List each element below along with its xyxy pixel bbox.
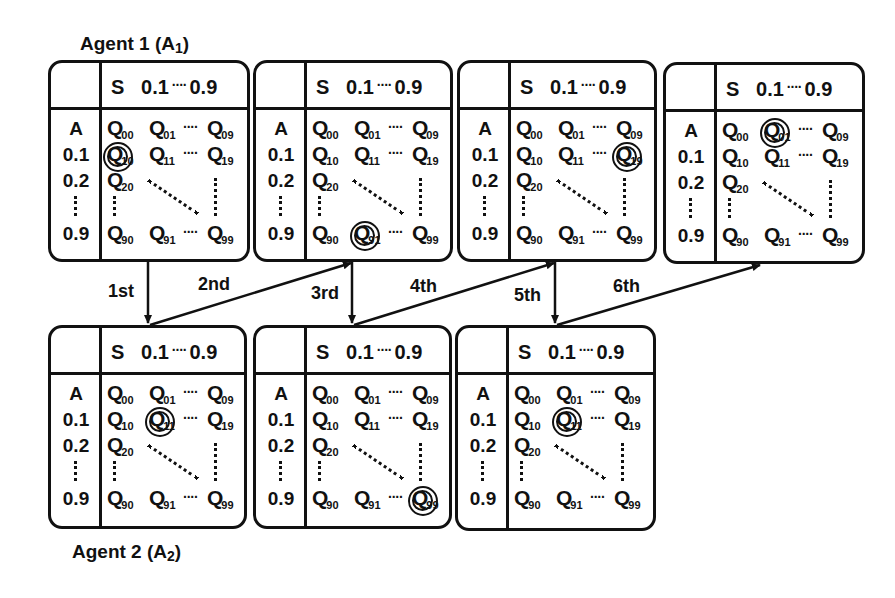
q-subscript: 91 xyxy=(163,234,175,246)
h-dots: ···· xyxy=(798,227,813,241)
state-last: 0.9 xyxy=(394,76,422,98)
column-divider xyxy=(304,328,307,526)
q-cell-10: Q10 xyxy=(312,143,339,164)
state-first: 0.1 xyxy=(548,341,576,363)
q-subscript: 20 xyxy=(326,181,338,193)
q-cell-19: Q19 xyxy=(614,408,641,429)
selected-q-inner-circle-icon xyxy=(556,411,577,432)
q-subscript: 20 xyxy=(528,446,540,458)
q-cell-99: Q99 xyxy=(207,487,234,508)
q-subscript: 01 xyxy=(163,394,175,406)
q-subscript: 20 xyxy=(121,181,133,193)
q-cell-11: Q11 xyxy=(558,143,584,164)
diagonal-ellipsis xyxy=(554,444,605,480)
q-table-panel-a1-panel3: T O S 0.1····0.9 A 0.1 0.2 0.9 Q00 Q01 ·… xyxy=(457,60,657,262)
q-cell-90: Q90 xyxy=(107,487,134,508)
column-divider xyxy=(508,63,511,259)
column-divider xyxy=(99,63,102,259)
state-dots: ···· xyxy=(579,342,594,358)
state-first: 0.1 xyxy=(141,341,169,363)
action-header: A xyxy=(464,119,506,138)
action-row-0-1: 0.1 xyxy=(260,145,302,164)
h-dots: ···· xyxy=(183,146,198,160)
state-label: S xyxy=(111,341,124,363)
q-table-panel-a1-panel1: T O S 0.1····0.9 A 0.1 0.2 0.9 Q00 Q01 ·… xyxy=(48,60,250,262)
q-cell-00: Q00 xyxy=(514,382,541,403)
header-divider xyxy=(666,109,862,112)
h-dots: ···· xyxy=(388,146,403,160)
q-subscript: 09 xyxy=(426,394,438,406)
q-cell-20: Q20 xyxy=(516,169,543,190)
selected-q-circle-icon xyxy=(145,407,175,437)
q-subscript: 99 xyxy=(221,499,233,511)
q-subscript: 00 xyxy=(530,129,542,141)
q-subscript: 09 xyxy=(221,394,233,406)
q-subscript: 99 xyxy=(628,499,640,511)
q-cell-90: Q90 xyxy=(516,222,543,243)
q-subscript: 19 xyxy=(426,420,438,432)
q-cell-20: Q20 xyxy=(722,171,749,192)
header-divider xyxy=(256,372,449,375)
state-label: S xyxy=(111,76,124,98)
selected-q-inner-circle-icon xyxy=(149,411,170,432)
action-row-0-1: 0.1 xyxy=(260,410,302,429)
state-first: 0.1 xyxy=(346,76,374,98)
q-cell-09: Q09 xyxy=(616,117,643,138)
q-cell-91: Q91 xyxy=(149,487,176,508)
col9-vertical-ellipsis xyxy=(214,443,220,481)
state-dots: ···· xyxy=(581,77,596,93)
q-subscript: 01 xyxy=(570,394,582,406)
action-header: A xyxy=(462,384,504,403)
q-subscript: 90 xyxy=(326,499,338,511)
col0-vertical-ellipsis xyxy=(728,198,734,218)
q-subscript: 11 xyxy=(368,155,380,167)
action-row-0-9: 0.9 xyxy=(670,226,712,245)
state-label: S xyxy=(316,76,329,98)
state-header: S 0.1····0.9 xyxy=(726,79,832,99)
q-subscript: 11 xyxy=(572,155,584,167)
step-label-1st: 1st xyxy=(108,282,134,300)
diagonal-ellipsis xyxy=(147,444,198,480)
col0-vertical-ellipsis xyxy=(318,196,324,216)
step-label-6th: 6th xyxy=(613,277,640,295)
h-dots: ···· xyxy=(183,385,198,399)
q-subscript: 10 xyxy=(326,155,338,167)
q-subscript: 10 xyxy=(326,420,338,432)
q-subscript: 01 xyxy=(368,394,380,406)
q-cell-10: Q10 xyxy=(514,408,541,429)
q-subscript: 09 xyxy=(630,129,642,141)
state-first: 0.1 xyxy=(141,76,169,98)
q-cell-11: Q11 xyxy=(764,145,790,166)
q-cell-01: Q01 xyxy=(354,117,381,138)
selected-q-inner-circle-icon xyxy=(354,225,375,246)
action-header: A xyxy=(670,121,712,140)
column-divider xyxy=(714,65,717,261)
state-first: 0.1 xyxy=(346,341,374,363)
q-cell-10: Q10 xyxy=(516,143,543,164)
q-subscript: 19 xyxy=(221,155,233,167)
selected-q-circle-icon xyxy=(760,118,790,148)
action-row-0-2: 0.2 xyxy=(55,171,97,190)
q-cell-09: Q09 xyxy=(207,117,234,138)
state-header: S 0.1····0.9 xyxy=(520,77,626,97)
col9-vertical-ellipsis xyxy=(214,178,220,216)
q-subscript: 10 xyxy=(121,420,133,432)
q-cell-19: Q19 xyxy=(207,408,234,429)
q-subscript: 00 xyxy=(528,394,540,406)
action-row-0-9: 0.9 xyxy=(464,224,506,243)
action-row-0-2: 0.2 xyxy=(260,436,302,455)
state-label: S xyxy=(518,341,531,363)
q-cell-99: Q99 xyxy=(822,224,849,245)
state-last: 0.9 xyxy=(598,76,626,98)
q-subscript: 99 xyxy=(836,236,848,248)
q-cell-20: Q20 xyxy=(107,434,134,455)
h-dots: ···· xyxy=(590,411,605,425)
h-dots: ···· xyxy=(388,385,403,399)
col0-vertical-ellipsis xyxy=(522,196,528,216)
action-vertical-ellipsis xyxy=(279,461,285,481)
q-subscript: 90 xyxy=(326,234,338,246)
q-subscript: 90 xyxy=(121,234,133,246)
action-header: A xyxy=(55,384,97,403)
q-cell-90: Q90 xyxy=(722,224,749,245)
state-first: 0.1 xyxy=(550,76,578,98)
